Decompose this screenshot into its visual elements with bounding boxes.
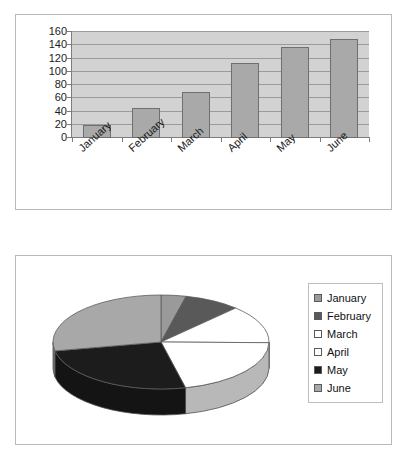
- y-axis-tick-mark: [67, 84, 71, 85]
- y-axis-tick-label: 40: [19, 106, 67, 116]
- y-axis-tick-label: 120: [19, 53, 67, 63]
- legend-item: April: [314, 343, 378, 361]
- legend-swatch: [314, 330, 322, 338]
- y-axis-tick-mark: [67, 31, 71, 32]
- pie-chart-graphic: [41, 276, 281, 426]
- bar: [330, 39, 358, 138]
- legend-item: February: [314, 307, 378, 325]
- y-axis-tick-mark: [67, 124, 71, 125]
- pie-chart-panel: JanuaryFebruaryMarchAprilMayJune: [15, 255, 392, 445]
- pie-slice: [53, 295, 161, 351]
- y-axis-tick-label: 20: [19, 119, 67, 129]
- bar: [231, 63, 259, 138]
- pie-legend: JanuaryFebruaryMarchAprilMayJune: [308, 283, 383, 403]
- legend-item: May: [314, 361, 378, 379]
- legend-item: June: [314, 379, 378, 397]
- legend-item: March: [314, 325, 378, 343]
- legend-label: February: [327, 311, 371, 322]
- y-axis-labels: 020406080100120140160: [16, 31, 67, 138]
- bar: [281, 47, 309, 138]
- y-axis-tick-label: 60: [19, 92, 67, 102]
- x-axis-tick-mark: [171, 138, 172, 142]
- pie-chart: [41, 276, 281, 426]
- legend-swatch: [314, 384, 322, 392]
- bar-chart-panel: 020406080100120140160 JanuaryFebruaryMar…: [15, 14, 392, 210]
- y-axis-tick-mark: [67, 71, 71, 72]
- y-axis-tick-label: 160: [19, 26, 67, 36]
- x-axis-tick-mark: [72, 138, 73, 142]
- legend-label: April: [327, 347, 349, 358]
- bar-chart: 020406080100120140160 JanuaryFebruaryMar…: [16, 15, 391, 209]
- y-axis-tick-label: 100: [19, 66, 67, 76]
- legend-item: January: [314, 289, 378, 307]
- legend-swatch: [314, 366, 322, 374]
- x-axis-tick-mark: [270, 138, 271, 142]
- y-axis-tick-label: 140: [19, 39, 67, 49]
- legend-swatch: [314, 348, 322, 356]
- legend-label: March: [327, 329, 358, 340]
- y-axis-tick-mark: [67, 137, 71, 138]
- legend-label: June: [327, 383, 351, 394]
- legend-swatch: [314, 294, 322, 302]
- y-axis-tick-mark: [67, 58, 71, 59]
- legend-label: May: [327, 365, 348, 376]
- y-axis-tick-label: 0: [19, 132, 67, 142]
- y-axis-tick-label: 80: [19, 79, 67, 89]
- y-axis-tick-mark: [67, 97, 71, 98]
- legend-swatch: [314, 312, 322, 320]
- x-axis-tick-mark: [320, 138, 321, 142]
- y-axis-tick-mark: [67, 111, 71, 112]
- x-axis-tick-mark: [221, 138, 222, 142]
- y-axis-tick-mark: [67, 44, 71, 45]
- legend-label: January: [327, 293, 366, 304]
- x-axis-tick-mark: [122, 138, 123, 142]
- x-axis-tick-mark: [369, 138, 370, 142]
- bar-series: [72, 31, 369, 138]
